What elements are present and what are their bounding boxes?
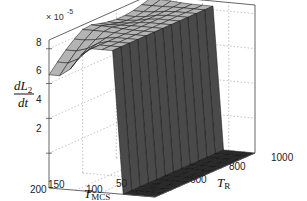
y-tick-50: 50 xyxy=(116,178,128,189)
y-label-sub: MCS xyxy=(91,192,110,201)
z-tick-4: 4 xyxy=(36,94,42,105)
x-tick-1000: 1000 xyxy=(271,152,294,163)
y-tick-0: 0 xyxy=(151,182,157,193)
surface xyxy=(49,0,255,197)
surface-plot: 8 6 4 2 × 10 -5 dL2 dt 200 150 100 50 0 … xyxy=(0,0,307,201)
z-tick-8: 8 xyxy=(36,37,42,48)
x-tick-800: 800 xyxy=(229,161,246,172)
svg-text:TR: TR xyxy=(217,175,230,191)
svg-text:dL2: dL2 xyxy=(14,78,32,95)
z-exponent: × 10 -5 xyxy=(46,8,73,22)
z-axis-ticks: 8 6 4 2 xyxy=(36,37,42,134)
y-tick-200: 200 xyxy=(30,184,47,195)
z-multiplier: × 10 xyxy=(46,12,64,22)
z-label-denominator: dt xyxy=(18,95,29,110)
z-exponent-value: -5 xyxy=(67,8,73,15)
x-axis-label: TR xyxy=(217,175,230,191)
z-tick-6: 6 xyxy=(36,65,42,76)
z-label-main: dL xyxy=(14,78,28,93)
z-tick-2: 2 xyxy=(36,123,42,134)
y-tick-150: 150 xyxy=(48,179,65,190)
z-axis-label: dL2 dt xyxy=(14,78,34,110)
x-tick-600: 600 xyxy=(190,174,207,185)
x-label-sub: R xyxy=(224,181,230,191)
